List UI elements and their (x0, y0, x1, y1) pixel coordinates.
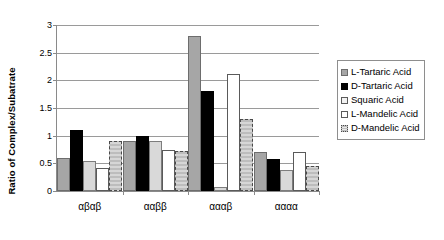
plot-area: 00.511.522.53αβαβααββαααβαααα (56, 25, 319, 192)
x-axis-category-label: αβαβ (78, 202, 101, 212)
legend-swatch-icon (341, 83, 348, 90)
bar (96, 168, 109, 191)
y-axis-tick-label: 2 (47, 76, 52, 85)
y-axis-tick-label: 3 (47, 21, 52, 30)
x-axis-category-label: ααββ (144, 202, 167, 212)
bar (70, 130, 83, 191)
legend-label: D-Mandelic Acid (351, 123, 420, 133)
x-axis-category-label: αααα (275, 202, 298, 212)
bar (267, 159, 280, 191)
y-axis-tick-label: 2.5 (39, 48, 52, 57)
bar (227, 74, 240, 191)
y-axis-tick-label: 0.5 (39, 159, 52, 168)
bar (57, 158, 70, 191)
x-axis-category-label: αααβ (209, 202, 232, 212)
bar (280, 170, 293, 191)
x-axis-tick-mark (254, 191, 255, 195)
legend-item: L-Tartaric Acid (341, 65, 420, 79)
y-axis-tick-label: 1 (47, 131, 52, 140)
bar (188, 36, 201, 191)
legend-label: Squaric Acid (351, 95, 404, 105)
bar (136, 136, 149, 191)
y-axis-title: Ratio of Complex/Subatrate (0, 11, 22, 240)
bar (83, 161, 96, 191)
bar (109, 141, 122, 191)
bar (123, 141, 136, 191)
legend-item: D-Tartaric Acid (341, 79, 420, 93)
legend-swatch-icon (341, 97, 348, 104)
bar-group (188, 25, 254, 191)
bar (201, 91, 214, 191)
bar-chart: Ratio of Complex/Subatrate 00.511.522.53… (0, 0, 444, 240)
bar (214, 187, 227, 191)
legend-swatch-icon (341, 125, 348, 132)
bar (254, 152, 267, 191)
legend-swatch-icon (341, 69, 348, 76)
y-axis-tick-label: 0 (47, 187, 52, 196)
x-axis-tick-mark (188, 191, 189, 195)
legend-item: Squaric Acid (341, 93, 420, 107)
bar (240, 119, 253, 191)
bar (149, 141, 162, 191)
x-axis-tick-mark (123, 191, 124, 195)
legend-swatch-icon (341, 111, 348, 118)
bar-group (123, 25, 189, 191)
y-axis-tick-label: 1.5 (39, 104, 52, 113)
bar (162, 150, 175, 192)
bar (175, 151, 188, 191)
x-axis-tick-mark (319, 191, 320, 195)
bar (306, 166, 319, 191)
legend-label: L-Tartaric Acid (351, 67, 411, 77)
bar (293, 152, 306, 191)
chart-legend: L-Tartaric AcidD-Tartaric AcidSquaric Ac… (337, 60, 425, 140)
legend-item: D-Mandelic Acid (341, 121, 420, 135)
bar-group (254, 25, 320, 191)
bar-group (57, 25, 123, 191)
y-axis-tick-mark (53, 191, 57, 192)
legend-label: D-Tartaric Acid (351, 81, 413, 91)
legend-item: L-Mandelic Acid (341, 107, 420, 121)
legend-label: L-Mandelic Acid (351, 109, 418, 119)
